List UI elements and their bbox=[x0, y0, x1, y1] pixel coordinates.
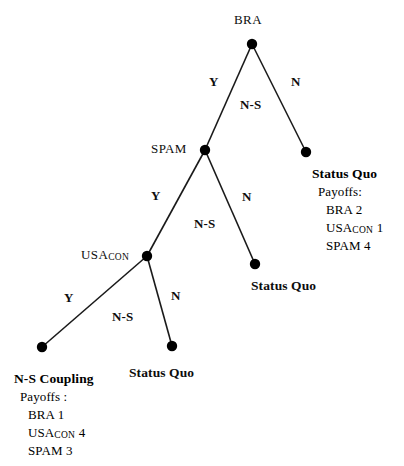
outcome-bottom-left-title: N-S Coupling bbox=[14, 371, 94, 387]
edge-label-spam-yes: Y bbox=[151, 189, 161, 202]
outcome-bottom-left-payoff-usa-subscript: CON bbox=[54, 430, 75, 440]
node-label-usa-con-subscript: CON bbox=[108, 252, 129, 262]
edge-label-usa-no: N bbox=[171, 289, 181, 302]
edge-label-spam-ns: N-S bbox=[194, 217, 216, 230]
outcome-right-payoff-usa-number: 1 bbox=[377, 220, 384, 235]
outcome-right-payoffs-label: Payoffs: bbox=[312, 184, 383, 200]
outcome-bottom-left-payoff-bra: BRA 1 bbox=[14, 407, 94, 423]
edge-label-usa-ns: N-S bbox=[112, 310, 134, 323]
node-spam bbox=[200, 145, 210, 155]
game-tree-diagram: BRA SPAM USACON Y N N-S Y N N-S Y N N-S … bbox=[0, 0, 404, 466]
outcome-right-payoff-spam: SPAM 4 bbox=[312, 238, 383, 254]
outcome-right-payoff-bra: BRA 2 bbox=[312, 202, 383, 218]
outcome-bottom-left-payoff-spam: SPAM 3 bbox=[14, 443, 94, 459]
node-terminal-bottom-middle bbox=[167, 341, 177, 351]
outcome-right: Status Quo Payoffs: BRA 2 USACON 1 SPAM … bbox=[312, 166, 383, 254]
node-label-usa-con-text: USA bbox=[81, 247, 108, 262]
outcome-bottom-left-payoff-usa-number: 4 bbox=[79, 425, 86, 440]
edge-label-bra-no: N bbox=[291, 75, 301, 88]
node-label-usa-con: USACON bbox=[81, 248, 129, 262]
edge-usa-no bbox=[147, 256, 172, 346]
edge-spam-no bbox=[205, 150, 255, 264]
node-terminal-middle bbox=[250, 259, 260, 269]
outcome-bottom-left: N-S Coupling Payoffs : BRA 1 USACON 4 SP… bbox=[14, 371, 94, 459]
outcome-middle-title: Status Quo bbox=[251, 279, 316, 293]
outcome-bottom-middle-title: Status Quo bbox=[129, 366, 194, 380]
node-terminal-right bbox=[301, 147, 311, 157]
edge-label-bra-ns: N-S bbox=[240, 98, 262, 111]
outcome-right-title: Status Quo bbox=[312, 166, 383, 182]
node-bra bbox=[247, 39, 257, 49]
edge-usa-yes bbox=[42, 256, 147, 347]
outcome-right-payoff-usa-subscript: CON bbox=[352, 225, 373, 235]
outcome-right-payoff-usa-label: USA bbox=[326, 220, 352, 235]
node-usa-con bbox=[142, 251, 152, 261]
outcome-bottom-left-payoff-usa: USACON 4 bbox=[14, 425, 94, 441]
node-label-spam: SPAM bbox=[151, 142, 187, 155]
edge-spam-yes bbox=[147, 150, 205, 256]
outcome-right-payoff-usa: USACON 1 bbox=[312, 220, 383, 236]
edge-label-spam-no: N bbox=[242, 190, 252, 203]
node-label-bra: BRA bbox=[234, 13, 262, 26]
outcome-bottom-left-payoff-usa-label: USA bbox=[28, 425, 54, 440]
edge-label-bra-yes: Y bbox=[209, 75, 219, 88]
outcome-bottom-left-payoffs-label: Payoffs : bbox=[14, 389, 94, 405]
node-terminal-bottom-left bbox=[37, 342, 47, 352]
edge-label-usa-yes: Y bbox=[64, 291, 74, 304]
